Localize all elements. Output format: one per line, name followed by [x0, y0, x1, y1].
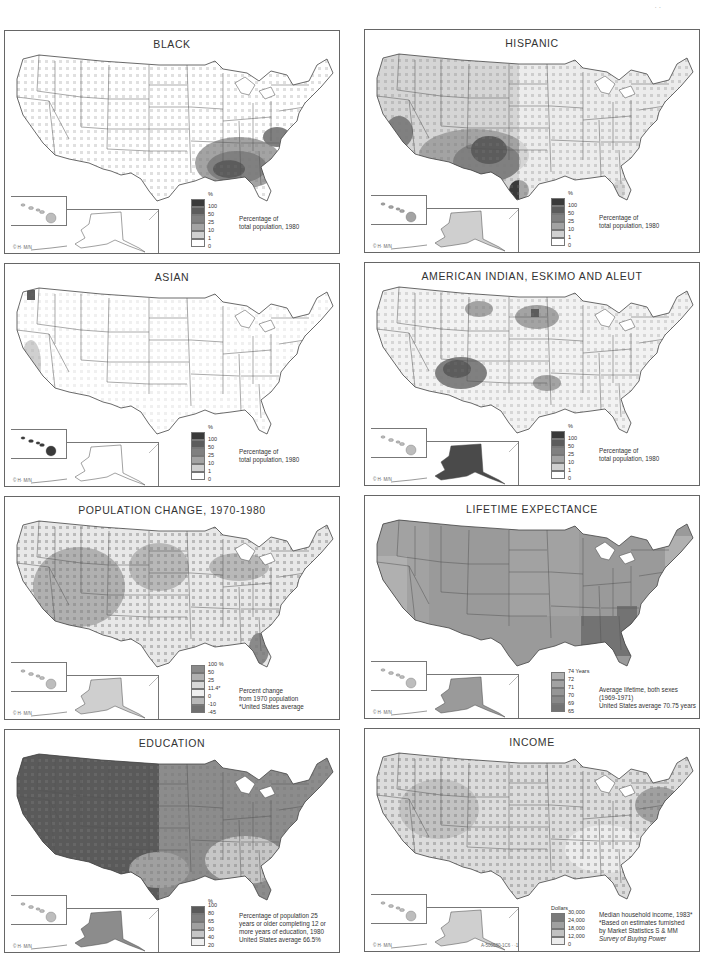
- legend-tick: 25: [568, 450, 577, 458]
- legend-tick: 65: [208, 917, 217, 925]
- legend-tick: 100 %: [208, 660, 224, 668]
- legend-swatch: [191, 705, 205, 713]
- legend-caption: Percentage oftotal population, 1980: [599, 447, 659, 463]
- legend-tick: 74 Years: [568, 667, 589, 675]
- legend-tick: 20: [208, 941, 217, 949]
- legend-swatch: [551, 431, 565, 439]
- legend-tick: 69: [568, 699, 589, 707]
- caption-line: total population, 1980: [599, 455, 659, 463]
- legend-swatch: [191, 930, 205, 938]
- legend-tick-labels: 30,00024,00018,00012,0000: [568, 908, 585, 948]
- legend-swatch: [551, 439, 565, 447]
- legend-swatch: [191, 448, 205, 456]
- caption-line: *United States average: [239, 703, 304, 711]
- page-corner-mark: · ·: [654, 4, 661, 11]
- legend-swatch: [191, 681, 205, 689]
- legend-swatch: [551, 455, 565, 463]
- map-panel-asian: ASIAN © H· M/N10050251010%Percentage oft…: [4, 263, 340, 487]
- caption-line: Median household income, 1983*: [599, 911, 692, 919]
- legend-tick: 0: [208, 692, 224, 700]
- legend-tick: 65: [568, 707, 589, 715]
- caption-line: Average lifetime, both sexes: [599, 686, 696, 694]
- legend-swatch: [191, 673, 205, 681]
- legend-swatch: [191, 231, 205, 239]
- legend-tick: 100: [208, 435, 217, 443]
- copyright-mark: © H· M/N: [13, 711, 32, 716]
- legend-swatch: [551, 937, 565, 945]
- caption-line: Percentage of population 25: [239, 912, 326, 920]
- panel-title: HISPANIC: [365, 37, 699, 49]
- legend-tick-labels: 100 %502511.4*0-10-45: [208, 660, 224, 716]
- map-panel-population-change: POPULATION CHANGE, 1970-1980 © H· M/N100…: [4, 496, 340, 720]
- legend-tick: 1: [208, 467, 217, 475]
- map-panel-american-indian: AMERICAN INDIAN, ESKIMO AND ALEUT © H· M…: [364, 262, 700, 486]
- legend-unit: Dollars: [551, 905, 568, 911]
- panel-title: ASIAN: [5, 271, 339, 283]
- legend-tick: 0: [568, 940, 585, 948]
- legend-unit: %: [568, 423, 573, 429]
- legend-tick: 50: [208, 443, 217, 451]
- legend-swatch: [551, 214, 565, 222]
- legend-tick: 100: [568, 201, 577, 209]
- legend-tick: 0: [208, 475, 217, 483]
- legend-unit: %: [568, 190, 573, 196]
- legend-swatch: [191, 215, 205, 223]
- legend-swatch: [191, 697, 205, 705]
- us-map: [369, 516, 697, 676]
- caption-line: Percentage of: [239, 448, 299, 456]
- legend-tick: 10: [568, 225, 577, 233]
- legend-swatches: [551, 672, 565, 712]
- legend-swatches: [551, 913, 565, 945]
- panel-title: EDUCATION: [5, 737, 339, 749]
- legend-tick: 50: [568, 209, 577, 217]
- legend-swatch: [551, 463, 565, 471]
- us-map: [369, 283, 697, 443]
- hawaii-inset: [11, 895, 67, 925]
- legend-swatches: [191, 906, 205, 946]
- us-map: [369, 749, 697, 909]
- panel-title: AMERICAN INDIAN, ESKIMO AND ALEUT: [365, 270, 699, 282]
- legend-swatch: [551, 447, 565, 455]
- legend-swatch: [191, 440, 205, 448]
- legend-swatch: [191, 472, 205, 480]
- legend-caption: Percentage oftotal population, 1980: [239, 448, 299, 464]
- legend-swatch: [191, 432, 205, 440]
- us-map: [9, 284, 337, 444]
- legend-tick: 80: [208, 909, 217, 917]
- legend-swatch: [191, 239, 205, 247]
- hawaii-inset: [11, 196, 67, 226]
- map-panel-hispanic: HISPANIC © H· M/N10050251010%Percentage …: [364, 29, 700, 253]
- map-panel-lifetime-expectance: LIFETIME EXPECTANCE © H· M/N74 Years7271…: [364, 495, 700, 719]
- caption-line: (1969-1971): [599, 694, 696, 702]
- panel-title: INCOME: [365, 736, 699, 748]
- legend-tick: 18,000: [568, 924, 585, 932]
- legend-swatch: [191, 938, 205, 946]
- legend-swatch: [551, 238, 565, 246]
- caption-line: years or older completing 12 or: [239, 920, 326, 928]
- legend-swatch: [191, 922, 205, 930]
- caption-line: Percentage of: [599, 214, 659, 222]
- caption-line: Percentage of: [599, 447, 659, 455]
- legend-tick: 40: [208, 933, 217, 941]
- hawaii-inset: [371, 428, 427, 458]
- legend-caption: Average lifetime, both sexes(1969-1971)U…: [599, 686, 696, 710]
- legend-tick: 1: [568, 466, 577, 474]
- legend-tick: 12,000: [568, 932, 585, 940]
- us-map: [9, 750, 337, 910]
- legend-swatch: [191, 464, 205, 472]
- legend-tick: 1: [568, 233, 577, 241]
- legend-tick: 0: [568, 241, 577, 249]
- caption-line: Percentage of: [239, 215, 299, 223]
- legend-swatch: [191, 665, 205, 673]
- copyright-mark: © H· M/N: [373, 943, 392, 948]
- legend-swatch: [191, 906, 205, 914]
- copyright-mark: © H· M/N: [13, 944, 32, 949]
- legend-swatch: [551, 230, 565, 238]
- legend-tick-labels: 10050251010: [208, 202, 217, 250]
- map-panel-black: BLACK © H· M/N10050251010%Percentage oft…: [4, 30, 340, 254]
- legend-swatch: [551, 198, 565, 206]
- legend-swatch: [191, 914, 205, 922]
- caption-line: Percent change: [239, 687, 304, 695]
- legend-tick: 25: [568, 217, 577, 225]
- legend-swatch: [551, 696, 565, 704]
